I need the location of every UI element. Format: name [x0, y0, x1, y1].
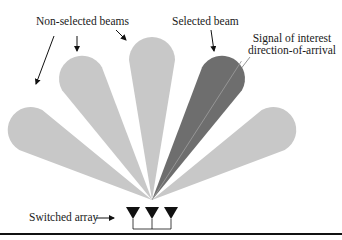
label-selected-beam: Selected beam: [172, 15, 239, 28]
arrow-selected: [211, 30, 214, 51]
array-element-3: [164, 207, 178, 219]
array-element-1: [126, 207, 140, 219]
array-feed-lines: [133, 219, 171, 229]
arrow-non-selected-3: [116, 30, 126, 40]
arrow-non-selected-1: [36, 36, 54, 84]
array-element-2: [145, 207, 159, 219]
switched-array: [126, 207, 178, 229]
signal-pointer-line: [240, 57, 250, 70]
switched-beam-diagram: Non-selected beams Selected beam Signal …: [0, 0, 342, 240]
label-non-selected-beams: Non-selected beams: [36, 15, 129, 28]
label-signal-line2: direction-of-arrival: [242, 44, 342, 57]
bottom-rule: [0, 233, 342, 235]
label-switched-array: Switched array: [29, 211, 98, 224]
